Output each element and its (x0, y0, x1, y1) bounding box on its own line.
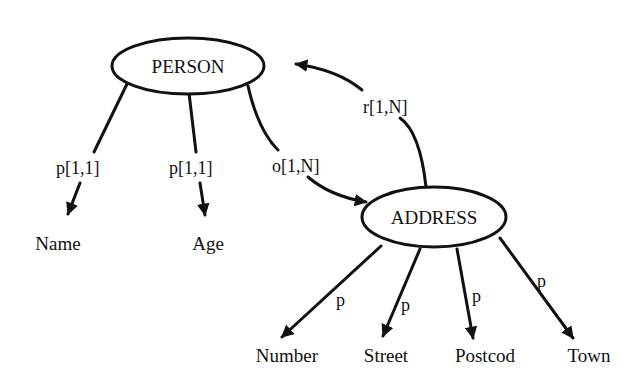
leaf-name: Name (35, 233, 80, 254)
arrow-icon (296, 64, 362, 90)
node-address: ADDRESS (362, 187, 506, 247)
edge-person-age: p[1,1] (169, 93, 213, 215)
edge-person-address: o[1,N] (248, 86, 366, 202)
edge-label: o[1,N] (272, 156, 320, 176)
edge-line (189, 93, 196, 152)
leaf-street: Street (364, 345, 409, 366)
edge-address-postcode: p (457, 249, 481, 338)
edge-label: p (537, 271, 546, 291)
edge-person-name: p[1,1] (56, 84, 127, 214)
edge-line (400, 118, 426, 187)
edge-label: r[1,N] (363, 97, 407, 117)
edge-address-town: p (500, 238, 573, 338)
node-person: PERSON (112, 38, 264, 94)
arrow-icon (68, 183, 80, 214)
arrow-icon (457, 249, 473, 338)
edge-address-street: p (383, 249, 420, 336)
diagram-canvas: p[1,1] p[1,1] o[1,N] r[1,N] p p p p (0, 0, 641, 386)
edge-line (94, 84, 127, 152)
arrow-icon (282, 246, 381, 337)
arrow-icon (308, 177, 366, 202)
arrow-icon (383, 249, 420, 336)
edge-address-number: p (282, 246, 381, 337)
leaf-age: Age (192, 233, 224, 254)
edge-label: p[1,1] (56, 158, 100, 178)
leaf-number: Number (256, 345, 319, 366)
edge-label: p (401, 295, 410, 315)
node-label: ADDRESS (391, 207, 478, 228)
leaf-town: Town (567, 345, 611, 366)
edge-label: p (336, 290, 345, 310)
node-label: PERSON (152, 56, 225, 77)
edge-label: p (472, 286, 481, 306)
leaf-postcode: Postcod (455, 345, 516, 366)
edge-label: p[1,1] (169, 158, 213, 178)
arrow-icon (200, 183, 205, 215)
edge-line (248, 86, 278, 150)
